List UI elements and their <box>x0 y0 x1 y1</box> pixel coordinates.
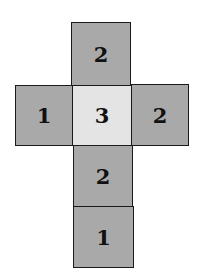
face-center: 3 <box>72 85 132 146</box>
face-label: 2 <box>94 42 109 67</box>
face-below-center: 2 <box>73 145 133 207</box>
face-label: 2 <box>96 164 111 189</box>
face-left: 1 <box>15 85 73 146</box>
face-top: 2 <box>71 22 131 86</box>
face-bottom: 1 <box>73 206 134 268</box>
face-right: 2 <box>131 84 189 146</box>
face-label: 2 <box>153 103 168 128</box>
face-label: 1 <box>37 103 52 128</box>
face-label: 3 <box>95 103 110 128</box>
face-label: 1 <box>96 225 111 250</box>
